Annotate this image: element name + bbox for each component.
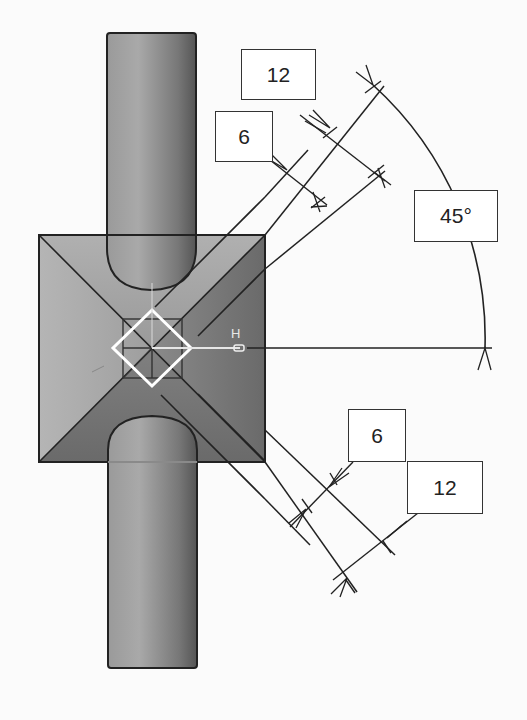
top-cylinder-end xyxy=(107,235,196,290)
drawing-canvas: H 12 6 45° 6 12 xyxy=(0,0,527,720)
drawing-svg: H xyxy=(0,0,527,720)
dimension-ticks xyxy=(302,81,483,593)
bottom-cylinder-end xyxy=(108,416,197,462)
extension-lines xyxy=(265,86,395,592)
dimension-angle: 45° xyxy=(414,190,498,242)
dimension-lower-outer: 12 xyxy=(407,461,483,514)
dimension-lower-inner: 6 xyxy=(348,409,406,462)
top-cylinder xyxy=(107,33,196,235)
h-axis-label: H xyxy=(231,326,240,341)
dimension-upper-inner: 6 xyxy=(215,111,273,162)
dimension-upper-outer: 12 xyxy=(241,49,316,100)
bottom-cylinder xyxy=(108,462,197,668)
